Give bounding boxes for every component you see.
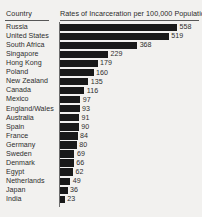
chart-header: Country Rates of Incarceration per 100,0…	[0, 9, 202, 21]
bar-row-country-label: India	[6, 195, 58, 203]
plot-area: Russia558United States519South Africa368…	[0, 22, 202, 212]
bar	[60, 150, 74, 157]
bar-value-label: 179	[100, 59, 112, 67]
bar-row-country-label: South Africa	[6, 41, 58, 49]
chart-title: Rates of Incarceration per 100,000 Popul…	[60, 9, 200, 18]
bar-row-country-label: France	[6, 132, 58, 140]
bar-value-label: 116	[87, 87, 98, 95]
bar	[60, 196, 65, 203]
bar-value-label: 23	[67, 195, 75, 203]
bar-value-label: 160	[96, 69, 108, 77]
bar-row-country-label: Denmark	[6, 159, 58, 167]
bar-value-label: 36	[70, 186, 78, 194]
bar-row-country-label: New Zealand	[6, 77, 58, 85]
bar-value-label: 66	[76, 159, 84, 167]
bar-row-country-label: England/Wales	[6, 105, 58, 113]
bar	[60, 87, 84, 94]
chart-title-rule	[60, 20, 199, 21]
bar-row-country-label: Australia	[6, 114, 58, 122]
bar-value-label: 90	[81, 123, 89, 131]
bar-row-country-label: United States	[6, 32, 58, 40]
bar	[60, 60, 98, 67]
bar	[60, 178, 70, 185]
incarceration-rate-chart: Country Rates of Incarceration per 100,0…	[0, 0, 202, 217]
bar-row-country-label: Netherlands	[6, 177, 58, 185]
bar-value-label: 97	[83, 96, 91, 104]
bar	[60, 114, 79, 121]
bar-row-country-label: Singapore	[6, 50, 58, 58]
bar-value-label: 93	[82, 105, 90, 113]
bar	[60, 168, 73, 175]
bar-value-label: 558	[180, 23, 192, 31]
bar-value-label: 84	[80, 132, 88, 140]
bar-value-label: 69	[77, 150, 85, 158]
bar-row-country-label: Germany	[6, 141, 58, 149]
bar-value-label: 229	[111, 50, 123, 58]
bar-row: India23	[0, 194, 202, 204]
bar	[60, 24, 177, 31]
bar-value-label: 135	[91, 78, 103, 86]
bar-value-label: 368	[140, 41, 152, 49]
bar-row-country-label: Mexico	[6, 95, 58, 103]
column-header-country-rule	[5, 20, 49, 21]
bar-row-country-label: Russia	[6, 23, 58, 31]
column-header-country: Country	[6, 9, 52, 18]
bar-value-label: 49	[73, 177, 81, 185]
bar	[60, 141, 77, 148]
bar-row-country-label: Sweden	[6, 150, 58, 158]
bar	[60, 42, 137, 49]
bar	[60, 33, 169, 40]
bar	[60, 105, 80, 112]
bar	[60, 159, 74, 166]
bar-row-country-label: Poland	[6, 68, 58, 76]
bar	[60, 132, 78, 139]
bar-value-label: 80	[79, 141, 87, 149]
bar	[60, 69, 94, 76]
bar-row-country-label: Egypt	[6, 168, 58, 176]
bar	[60, 51, 108, 58]
bar-row-country-label: Hong Kong	[6, 59, 58, 67]
bar-row-country-label: Spain	[6, 123, 58, 131]
bar	[60, 187, 68, 194]
bar	[60, 78, 88, 85]
bar-value-label: 91	[82, 114, 90, 122]
bar-row-country-label: Canada	[6, 86, 58, 94]
bar-row-country-label: Japan	[6, 186, 58, 194]
bar-value-label: 519	[171, 32, 183, 40]
bar	[60, 96, 80, 103]
bar	[60, 123, 79, 130]
bar-value-label: 62	[76, 168, 84, 176]
